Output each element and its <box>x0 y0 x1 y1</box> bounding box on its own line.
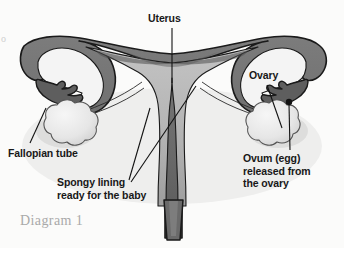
ovary-right-group <box>246 100 308 148</box>
cervix-canal <box>164 200 183 240</box>
ovary-left <box>44 100 98 145</box>
ovary-right <box>246 100 300 145</box>
label-uterus: Uterus <box>148 12 181 25</box>
label-ovum: Ovum (egg) released from the ovary <box>243 152 311 190</box>
page-edge-mark: o <box>1 33 6 44</box>
label-fallopian-tube: Fallopian tube <box>8 147 78 160</box>
label-spongy-lining: Spongy lining ready for the baby <box>57 176 146 201</box>
page-bottom-band <box>0 248 344 261</box>
figure-caption: Diagram 1 <box>20 213 83 229</box>
ovary-left-group <box>36 100 98 148</box>
label-ovary: Ovary <box>249 69 278 82</box>
diagram-page: Uterus Ovary Fallopian tube Spongy linin… <box>0 0 344 261</box>
